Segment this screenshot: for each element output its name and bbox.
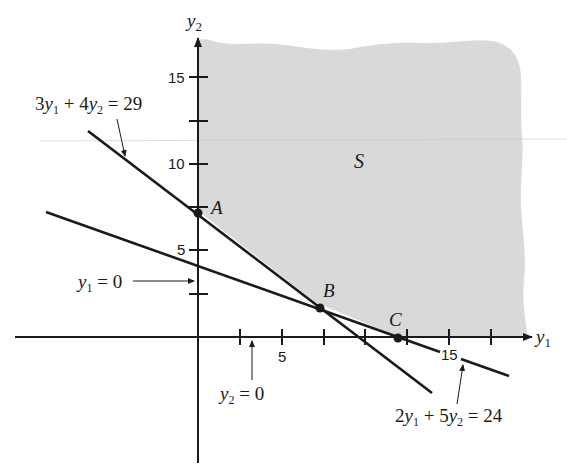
pointer-arrow-eq2	[457, 365, 463, 404]
vertex-a	[194, 209, 203, 218]
region-label-s: S	[354, 150, 364, 172]
vertex-b	[316, 304, 325, 313]
equation-label-y2-zero: y2 = 0	[218, 383, 264, 407]
y2-axis-label: y2	[185, 10, 202, 34]
tick-label-y2-15: 15	[168, 69, 185, 86]
vertex-label-b: B	[323, 280, 335, 301]
feasible-region-s	[198, 39, 528, 337]
vertex-label-a: A	[209, 197, 223, 218]
tick-label-y1-15: 15	[441, 346, 458, 363]
equation-label-3y1-4y2-29: 3y1 + 4y2 = 29	[35, 93, 142, 117]
tick-label-y2-5: 5	[177, 241, 185, 258]
vertex-c	[394, 334, 403, 343]
tick-label-y1-5: 5	[278, 348, 286, 365]
equation-label-2y1-5y2-24: 2y1 + 5y2 = 24	[395, 405, 503, 429]
vertex-label-c: C	[389, 309, 402, 330]
tick-label-y2-10: 10	[168, 155, 185, 172]
constraint-line-2y1-5y2-24-tail	[461, 359, 509, 376]
feasible-region-diagram: 5 15 5 10 15 y1 y2 A B C S 3y1 + 4y2 = 2…	[0, 0, 567, 474]
pointer-arrow-eq1	[117, 119, 125, 156]
y1-axis-label: y1	[534, 326, 551, 350]
equation-label-y1-zero: y1 = 0	[76, 271, 122, 295]
